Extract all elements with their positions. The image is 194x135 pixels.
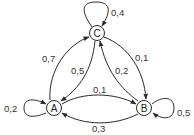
edge-label-a-to-c: 0,7 — [42, 53, 55, 64]
node-label-c: C — [93, 28, 100, 39]
edge-c-to-c — [84, 2, 108, 27]
edge-label-b-to-b: 0,5 — [177, 107, 190, 118]
edge-b-to-b — [152, 98, 174, 117]
node-b: B — [137, 101, 152, 116]
edge-label-c-to-c: 0,4 — [111, 7, 124, 18]
edge-b-to-a — [62, 113, 138, 123]
edge-a-to-a — [24, 100, 46, 116]
edge-label-b-to-c: 0,2 — [115, 65, 128, 76]
edge-label-c-to-b: 0,1 — [135, 52, 148, 63]
node-label-b: B — [141, 103, 148, 114]
edge-label-b-to-a: 0,3 — [92, 123, 105, 134]
node-c: C — [90, 26, 105, 41]
edge-label-a-to-a: 0,2 — [4, 103, 17, 114]
markov-chain-diagram: 0,4 0,2 0,5 0,7 0,5 0,1 0,2 0,1 0,3 C A … — [0, 0, 194, 135]
edge-a-to-b — [62, 95, 136, 104]
node-label-a: A — [51, 103, 58, 114]
edge-label-c-to-a: 0,5 — [71, 65, 84, 76]
node-a: A — [47, 101, 62, 116]
edge-label-a-to-b: 0,1 — [93, 84, 106, 95]
